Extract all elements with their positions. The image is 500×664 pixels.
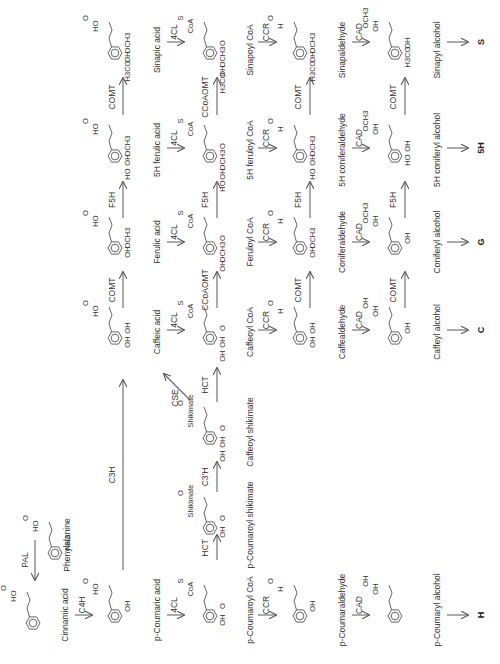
- substituent-label: OCH3: [218, 150, 227, 171]
- compound-name: Caffeyl alcohol: [432, 304, 442, 360]
- enzyme-label: 4CL: [169, 24, 179, 40]
- aromatic-circle: [111, 612, 119, 620]
- side-chain: [294, 125, 297, 150]
- arrow-ccoaomt: CCoAOMT: [200, 76, 217, 118]
- substituent-label: OH: [403, 322, 412, 333]
- aromatic-circle: [206, 49, 214, 57]
- substituent-label: O: [218, 143, 227, 149]
- substituent-label: OH: [403, 232, 412, 243]
- compound-cinnamic-acid: HOOCinnamic acid: [0, 585, 70, 642]
- substituent-label: OH: [218, 260, 227, 271]
- aromatic-circle: [391, 152, 399, 160]
- compound-sinapoyl-coa: CoASOOCH3OHH3COSinapoyl CoA: [176, 15, 255, 93]
- substituent-label: O: [21, 515, 30, 521]
- aromatic-circle: [111, 49, 119, 57]
- substituent-label: OH: [218, 450, 227, 461]
- molecules: HOONH2PhenylalanineHOOCinnamic acidHOOOH…: [0, 8, 442, 647]
- compound-caffealdehyde: HOOHOHCaffealdehyde: [266, 300, 347, 359]
- substituent-label: OH: [218, 614, 227, 625]
- substituent-label: OH: [308, 322, 317, 333]
- arrow-f5h: F5H: [293, 182, 310, 218]
- substituent-label: OH: [218, 168, 227, 179]
- side-chain: [204, 22, 207, 47]
- arrow-ccr: CCR: [258, 596, 276, 615]
- substituent-label: CoA: [186, 122, 195, 137]
- compound-name: Sinapic acid: [152, 27, 162, 73]
- substituent-label: OH: [123, 246, 132, 257]
- enzyme-label: 4CL: [169, 312, 179, 328]
- enzyme-label: CAD: [354, 596, 364, 614]
- substituent-label: O: [0, 585, 8, 591]
- substituent-label: OH: [218, 350, 227, 361]
- enzyme-label: C3H: [107, 466, 117, 483]
- substituent-label: H: [276, 308, 285, 313]
- substituent-label: O: [218, 515, 227, 521]
- side-chain: [109, 307, 112, 332]
- arrow-4cl: 4CL: [167, 312, 184, 330]
- aromatic-circle: [206, 244, 214, 252]
- pathway-diagram: PALC4H4CLCCRCADHCTC3'HHCTCSEC3H4CLCCRCAD…: [0, 0, 500, 664]
- substituent-label: OH: [123, 322, 132, 333]
- substituent-label: H: [276, 586, 285, 591]
- substituent-label: OH: [371, 583, 380, 594]
- substituent-label: S: [176, 210, 185, 215]
- substituent-label: O: [218, 603, 227, 609]
- substituent-label: S: [176, 300, 185, 305]
- substituent-label: OH: [361, 297, 370, 308]
- aromatic-circle: [391, 334, 399, 342]
- arrow-c4h: C4H: [75, 596, 92, 615]
- substituent-label: O: [218, 235, 227, 241]
- side-chain: [389, 585, 392, 610]
- aromatic-circle: [296, 334, 304, 342]
- side-chain: [389, 125, 392, 150]
- side-chain: [204, 407, 207, 432]
- compound-feruloyl-coa: CoASOOCH3OHFeruloyl CoA: [176, 210, 255, 271]
- arrow-4cl: 4CL: [167, 224, 184, 242]
- side-chain: [294, 22, 297, 47]
- substituent-label: HO: [31, 520, 40, 531]
- arrow-ccr: CCR: [258, 129, 276, 148]
- substituent-label: H3CO: [308, 60, 317, 81]
- arrow-hct: HCT: [200, 535, 217, 560]
- compound-sinapic-acid: HOOOCH3OHH3COSinapic acid: [81, 15, 162, 82]
- substituent-label: HO: [9, 590, 18, 601]
- substituent-label: OCH3: [308, 136, 317, 157]
- substituent-label: S: [176, 118, 185, 123]
- substituent-label: O: [81, 578, 90, 584]
- lignin-units: S5HGCH: [476, 39, 486, 618]
- substituent-label: O: [218, 325, 227, 331]
- lignin-unit-5h: 5H: [476, 142, 486, 154]
- aromatic-circle: [391, 49, 399, 57]
- enzyme-label: CCR: [261, 23, 271, 41]
- substituent-label: S: [176, 578, 185, 583]
- substituent-label: OCH3: [361, 8, 370, 29]
- lignin-unit-s: S: [476, 39, 486, 45]
- substituent-label: H: [276, 126, 285, 131]
- aromatic-circle: [206, 524, 214, 532]
- substituent-label: O: [266, 578, 275, 584]
- enzyme-label: 4CL: [169, 224, 179, 240]
- arrow-comt: COMT: [293, 78, 310, 115]
- side-chain: [109, 585, 112, 610]
- arrow-cad: CAD: [352, 596, 369, 615]
- arrow-4cl: 4CL: [167, 597, 184, 615]
- substituent-label: OCH3: [361, 203, 370, 224]
- substituent-label: OCH3: [361, 111, 370, 132]
- side-chain: [204, 125, 207, 150]
- arrow-4cl: 4CL: [167, 130, 184, 148]
- side-chain: [294, 585, 297, 610]
- substituent-label: OH: [218, 526, 227, 537]
- compound-name: p-Coumaric acid: [152, 579, 162, 641]
- arrow-f5h: F5H: [107, 182, 123, 218]
- compound-p-coumaroyl-coa: CoASOOHp-Coumaroyl CoA: [176, 576, 255, 644]
- substituent-label: O: [176, 490, 185, 496]
- compound-name: 5H feruloyl CoA: [245, 120, 255, 180]
- arrow-hct: HCT: [200, 368, 217, 402]
- side-chain: [389, 307, 392, 332]
- compound-name: 5H coniferaldehyde: [337, 113, 347, 187]
- aromatic-circle: [296, 152, 304, 160]
- enzyme-label: CAD: [354, 311, 364, 329]
- substituent-label: H3CO: [218, 72, 227, 93]
- side-chain: [389, 217, 392, 242]
- substituent-label: OCH3: [123, 136, 132, 157]
